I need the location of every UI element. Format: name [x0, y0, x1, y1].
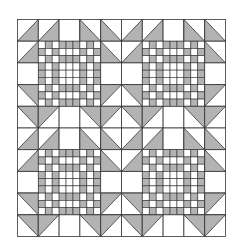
quilt-cell — [18, 128, 39, 150]
quilt-cell — [122, 171, 143, 193]
quilt-cell — [142, 63, 163, 85]
quilt-cell — [163, 20, 184, 42]
quilt-cell — [80, 128, 101, 150]
quilt-cell — [80, 215, 101, 237]
quilt-cell — [122, 85, 143, 107]
quilt-cell — [59, 63, 80, 85]
quilt-cell — [80, 20, 101, 42]
quilt-cell — [18, 20, 39, 42]
quilt-cell — [205, 193, 226, 215]
quilt-cell — [18, 85, 39, 107]
quilt-cell — [184, 20, 205, 42]
quilt-cell — [101, 85, 122, 107]
quilt-cell — [163, 85, 184, 107]
quilt-cell — [163, 41, 184, 63]
quilt-cell — [205, 106, 226, 128]
quilt-cell — [38, 20, 59, 42]
quilt-cell — [142, 150, 163, 172]
quilt-cell — [38, 193, 59, 215]
quilt-cell — [101, 128, 122, 150]
quilt-cell — [142, 215, 163, 237]
quilt-cell — [38, 41, 59, 63]
quilt-cell — [205, 20, 226, 42]
quilt-cell — [122, 63, 143, 85]
quilt-cell — [101, 41, 122, 63]
quilt-cell — [59, 41, 80, 63]
quilt-cell — [122, 20, 143, 42]
quilt-cell — [184, 63, 205, 85]
quilt-cell — [38, 106, 59, 128]
quilt-cell — [18, 63, 39, 85]
quilt-cell — [80, 85, 101, 107]
quilt-cell — [122, 41, 143, 63]
quilt-cell — [101, 20, 122, 42]
quilt-cell — [101, 215, 122, 237]
quilt-cell — [163, 193, 184, 215]
quilt-cell — [59, 150, 80, 172]
quilt-cell — [101, 106, 122, 128]
quilt-cell — [142, 106, 163, 128]
quilt-diagram — [17, 19, 225, 236]
quilt-cell — [18, 41, 39, 63]
quilt-cell — [18, 215, 39, 237]
quilt-cell — [205, 128, 226, 150]
quilt-cell — [184, 85, 205, 107]
quilt-cell — [18, 171, 39, 193]
quilt-cell — [205, 41, 226, 63]
quilt-cell — [59, 85, 80, 107]
quilt-cell — [184, 215, 205, 237]
quilt-cell — [184, 128, 205, 150]
quilt-cell — [122, 193, 143, 215]
quilt-cell — [80, 150, 101, 172]
quilt-cell — [163, 150, 184, 172]
quilt-cell — [59, 193, 80, 215]
quilt-cell — [184, 106, 205, 128]
quilt-cell — [122, 128, 143, 150]
quilt-cell — [80, 106, 101, 128]
quilt-cell — [38, 85, 59, 107]
quilt-cell — [205, 215, 226, 237]
quilt-cell — [38, 215, 59, 237]
quilt-cell — [80, 193, 101, 215]
quilt-cell — [142, 41, 163, 63]
quilt-cell — [38, 128, 59, 150]
quilt-cell — [142, 20, 163, 42]
quilt-cell — [122, 215, 143, 237]
quilt-cell — [142, 171, 163, 193]
quilt-cell — [142, 193, 163, 215]
quilt-cell — [59, 215, 80, 237]
quilt-cell — [101, 63, 122, 85]
quilt-cell — [163, 106, 184, 128]
quilt-cell — [122, 150, 143, 172]
quilt-cell — [59, 20, 80, 42]
quilt-cell — [38, 63, 59, 85]
quilt-cell — [205, 171, 226, 193]
quilt-cell — [101, 171, 122, 193]
quilt-cell — [184, 41, 205, 63]
quilt-cell — [18, 193, 39, 215]
quilt-cell — [59, 106, 80, 128]
quilt-cell — [80, 41, 101, 63]
quilt-cell — [59, 171, 80, 193]
quilt-cell — [142, 85, 163, 107]
quilt-cell — [205, 150, 226, 172]
quilt-cell — [184, 171, 205, 193]
quilt-cell — [163, 128, 184, 150]
quilt-cell — [101, 193, 122, 215]
quilt-cell — [122, 106, 143, 128]
quilt-cell — [38, 171, 59, 193]
quilt-svg — [17, 19, 226, 237]
quilt-cell — [163, 215, 184, 237]
quilt-cell — [80, 171, 101, 193]
quilt-cell — [142, 128, 163, 150]
quilt-cell — [163, 171, 184, 193]
quilt-cell — [80, 63, 101, 85]
quilt-cell — [163, 63, 184, 85]
quilt-cell — [18, 150, 39, 172]
quilt-cell — [184, 150, 205, 172]
quilt-cell — [205, 85, 226, 107]
quilt-cell — [38, 150, 59, 172]
quilt-cell — [205, 63, 226, 85]
quilt-cell — [18, 106, 39, 128]
quilt-cell — [101, 150, 122, 172]
